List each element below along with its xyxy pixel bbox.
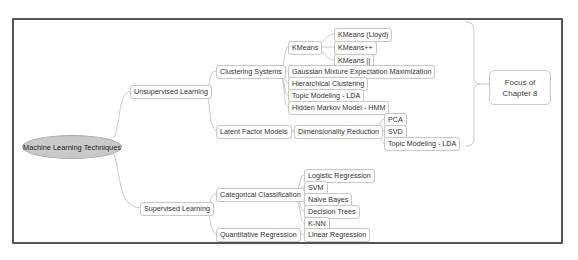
node-dimensionality-reduction[interactable]: Dimensionality Reduction — [294, 125, 383, 139]
node-clustering-systems[interactable]: Clustering Systems — [216, 65, 286, 79]
node-kmeans-plusplus[interactable]: KMeans++ — [334, 41, 377, 55]
node-kmeans-lloyd[interactable]: KMeans (Lloyd) — [334, 28, 392, 42]
node-unsupervised-learning[interactable]: Unsupervised Learning — [130, 85, 212, 99]
node-quantitative-regression[interactable]: Quantitative Regression — [216, 228, 301, 242]
node-latent-factor-models[interactable]: Latent Factor Models — [216, 125, 292, 139]
node-topic-modeling-lda-dimred[interactable]: Topic Modeling - LDA — [384, 137, 460, 151]
focus-callout[interactable]: Focus of Chapter 8 — [489, 70, 551, 105]
node-linear-regression[interactable]: Linear Regression — [304, 228, 370, 242]
node-categorical-classification[interactable]: Categorical Classification — [216, 188, 305, 202]
node-hidden-markov-model[interactable]: Hidden Markov Model - HMM — [288, 101, 389, 115]
focus-line2: Chapter 8 — [502, 88, 537, 99]
root-label: Machine Learning Techniques — [23, 143, 121, 152]
node-supervised-learning[interactable]: Supervised Learning — [140, 202, 214, 216]
root-node[interactable]: Machine Learning Techniques — [22, 135, 122, 159]
node-kmeans[interactable]: KMeans — [288, 41, 322, 55]
focus-line1: Focus of — [502, 77, 537, 88]
